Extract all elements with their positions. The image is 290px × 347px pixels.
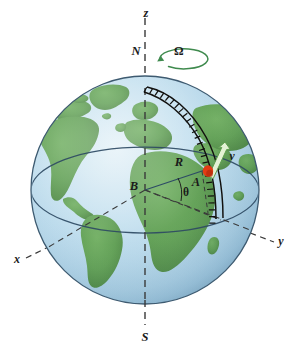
omega-rotation-indicator: Ω [157, 44, 208, 69]
z-axis-label: z [143, 6, 149, 20]
x-axis-label: x [13, 252, 20, 266]
omega-ellipse-arrow [160, 49, 208, 69]
velocity-label: v [229, 150, 235, 162]
south-pole-group: S [142, 300, 149, 344]
theta-label: θ [183, 186, 189, 198]
earth-rotation-diagram: z N Ω x y [0, 0, 290, 347]
point-a-marker-shadow [206, 170, 213, 177]
center-label: B [129, 179, 138, 193]
center-point-group: B [129, 179, 138, 193]
north-pole-label: N [130, 44, 141, 58]
radius-label: R [174, 155, 183, 169]
point-a-label: A [191, 175, 200, 189]
y-axis-label: y [276, 234, 284, 248]
omega-label: Ω [174, 44, 184, 58]
south-pole-label: S [142, 330, 149, 344]
omega-arrowhead [157, 56, 164, 62]
